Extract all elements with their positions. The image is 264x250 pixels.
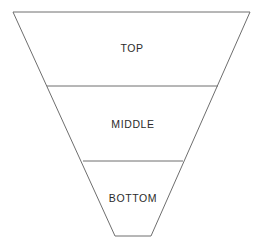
funnel-segment-label-middle: MIDDLE: [111, 119, 154, 130]
funnel-segment-label-bottom: BOTTOM: [109, 193, 157, 204]
funnel-diagram: TOP MIDDLE BOTTOM: [0, 0, 264, 250]
funnel-segment-label-top: TOP: [120, 43, 143, 54]
